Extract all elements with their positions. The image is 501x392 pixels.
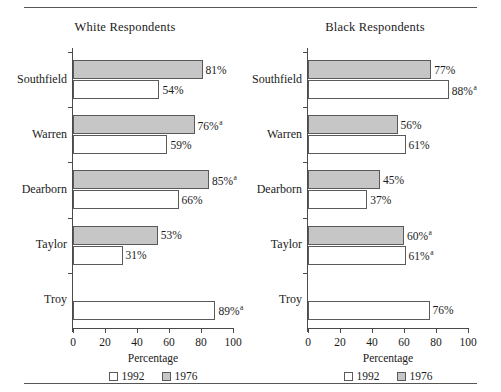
- legend-item-1992[interactable]: 1992: [344, 370, 380, 382]
- x-axis-tick: [137, 328, 138, 333]
- bar-value-label: 66%: [182, 194, 203, 206]
- footnote-marker: a: [219, 118, 222, 127]
- y-axis-tick: [303, 218, 308, 219]
- bar-warren-1992: 59%: [73, 135, 167, 154]
- legend-label: 1976: [410, 370, 433, 382]
- bar-value-label: 31%: [126, 249, 147, 261]
- bar-taylor-1992: 31%: [73, 246, 123, 265]
- bar-dearborn-1992: 66%: [73, 190, 179, 209]
- bar-value-label: 37%: [370, 194, 391, 206]
- x-axis-tick: [468, 328, 469, 333]
- bar-taylor-1992: 61%a: [308, 246, 406, 265]
- legend-label: 1992: [122, 370, 145, 382]
- category-label-dearborn: Dearborn: [0, 182, 67, 197]
- x-axis-title: Percentage: [308, 352, 468, 364]
- x-axis-tick: [105, 328, 106, 333]
- legend-label: 1976: [175, 370, 198, 382]
- bar-dearborn-1992: 37%: [308, 190, 367, 209]
- x-axis-line: [307, 328, 468, 329]
- footnote-marker: a: [473, 83, 476, 92]
- bar-value-label: 76%: [433, 304, 454, 316]
- y-axis-tick: [68, 162, 73, 163]
- x-axis-tick: [308, 328, 309, 333]
- bar-value-label: 45%: [383, 174, 404, 186]
- bar-dearborn-1976: 85%a: [73, 170, 209, 189]
- legend-swatch-1992: [344, 372, 353, 381]
- y-axis-tick: [303, 107, 308, 108]
- bar-taylor-1976: 53%: [73, 226, 158, 245]
- bar-value-label: 54%: [162, 84, 183, 96]
- x-axis-tick: [372, 328, 373, 333]
- x-axis-title: Percentage: [73, 352, 233, 364]
- legend-swatch-1976: [397, 372, 406, 381]
- category-label-troy: Troy: [0, 292, 67, 307]
- legend: 19921976: [73, 370, 233, 382]
- footnote-marker: a: [429, 228, 432, 237]
- y-axis-tick: [68, 52, 73, 53]
- legend-item-1976[interactable]: 1976: [397, 370, 433, 382]
- bar-troy-1992: 89%a: [73, 301, 215, 320]
- category-label-southfield: Southfield: [0, 72, 67, 87]
- category-label-southfield: Southfield: [212, 72, 302, 87]
- x-axis-tick-label: 100: [448, 336, 488, 348]
- y-axis-tick: [303, 52, 308, 53]
- category-label-troy: Troy: [212, 292, 302, 307]
- bar-value-label: 61%: [409, 139, 430, 151]
- bar-value-label: 61%a: [409, 248, 434, 262]
- y-axis-tick: [68, 107, 73, 108]
- y-axis-tick: [68, 273, 73, 274]
- y-axis-tick: [303, 162, 308, 163]
- x-axis-tick-label: 100: [213, 336, 253, 348]
- bar-southfield-1976: 77%: [308, 60, 431, 79]
- plot-area-white: 020406080100Southfield81%54%Warren76%a59…: [73, 52, 233, 328]
- footnote-marker: a: [430, 248, 433, 257]
- bar-taylor-1976: 60%a: [308, 226, 404, 245]
- category-label-taylor: Taylor: [0, 237, 67, 252]
- bar-southfield-1992: 88%a: [308, 80, 449, 99]
- category-label-dearborn: Dearborn: [212, 182, 302, 197]
- legend-swatch-1992: [109, 372, 118, 381]
- bar-warren-1992: 61%: [308, 135, 406, 154]
- legend-label: 1992: [357, 370, 380, 382]
- x-axis-tick: [404, 328, 405, 333]
- x-axis-line: [72, 328, 233, 329]
- bar-value-label: 60%a: [407, 228, 432, 242]
- plot-area-black: 020406080100Southfield77%88%aWarren56%61…: [308, 52, 468, 328]
- bar-value-label: 77%: [434, 64, 455, 76]
- legend-swatch-1976: [162, 372, 171, 381]
- bar-value-label: 88%a: [452, 83, 477, 97]
- x-axis-tick: [169, 328, 170, 333]
- bar-southfield-1976: 81%: [73, 60, 203, 79]
- panel-title-black: Black Respondents: [250, 20, 500, 35]
- legend-item-1992[interactable]: 1992: [109, 370, 145, 382]
- footnote-marker: a: [234, 173, 237, 182]
- bar-value-label: 56%: [401, 119, 422, 131]
- category-label-warren: Warren: [212, 127, 302, 142]
- y-axis-tick: [68, 218, 73, 219]
- panel-black-respondents: Black Respondents 020406080100Southfield…: [250, 0, 500, 392]
- bar-troy-1992: 76%: [308, 301, 430, 320]
- legend: 19921976: [308, 370, 468, 382]
- x-axis-tick: [201, 328, 202, 333]
- bar-value-label: 53%: [161, 229, 182, 241]
- x-axis-tick: [73, 328, 74, 333]
- bar-warren-1976: 76%a: [73, 115, 195, 134]
- bar-dearborn-1976: 45%: [308, 170, 380, 189]
- x-axis-tick: [436, 328, 437, 333]
- legend-item-1976[interactable]: 1976: [162, 370, 198, 382]
- category-label-warren: Warren: [0, 127, 67, 142]
- bar-southfield-1992: 54%: [73, 80, 159, 99]
- x-axis-tick: [340, 328, 341, 333]
- bar-warren-1976: 56%: [308, 115, 398, 134]
- category-label-taylor: Taylor: [212, 237, 302, 252]
- x-axis-tick: [233, 328, 234, 333]
- panel-title-white: White Respondents: [0, 20, 250, 35]
- bar-value-label: 59%: [170, 139, 191, 151]
- y-axis-tick: [303, 273, 308, 274]
